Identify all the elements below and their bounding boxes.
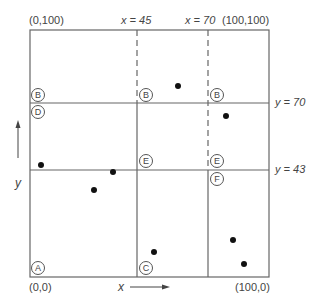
y-arrow-head-icon xyxy=(16,120,21,128)
data-point xyxy=(230,237,236,243)
divider-label-x45: x = 45 xyxy=(121,15,151,26)
diagram-canvas xyxy=(0,0,316,303)
region-label-b-left: B xyxy=(31,88,45,102)
region-label-e-right: E xyxy=(210,154,224,168)
region-label-d: D xyxy=(31,105,45,119)
region-label-c: C xyxy=(139,261,153,275)
divider-label-y70: y = 70 xyxy=(275,97,305,108)
data-point xyxy=(175,83,181,89)
data-point xyxy=(223,113,229,119)
region-label-f: F xyxy=(210,172,224,186)
corner-label-bottom-left: (0,0) xyxy=(29,282,52,293)
data-point xyxy=(38,162,44,168)
region-label-a: A xyxy=(31,261,45,275)
region-label-b-right: B xyxy=(210,88,224,102)
corner-label-bottom-right: (100,0) xyxy=(235,282,270,293)
corner-label-top-left: (0,100) xyxy=(29,15,64,26)
x-axis-label: x xyxy=(118,281,124,293)
region-label-b-middle: B xyxy=(139,88,153,102)
data-point xyxy=(151,249,157,255)
data-point xyxy=(110,169,116,175)
x-arrow-head-icon xyxy=(162,285,170,290)
data-point xyxy=(241,261,247,267)
y-axis-label: y xyxy=(15,177,21,189)
divider-label-x70: x = 70 xyxy=(185,15,215,26)
corner-label-top-right: (100,100) xyxy=(222,15,269,26)
divider-label-y43: y = 43 xyxy=(275,164,305,175)
region-label-e-middle: E xyxy=(139,154,153,168)
data-point xyxy=(91,187,97,193)
